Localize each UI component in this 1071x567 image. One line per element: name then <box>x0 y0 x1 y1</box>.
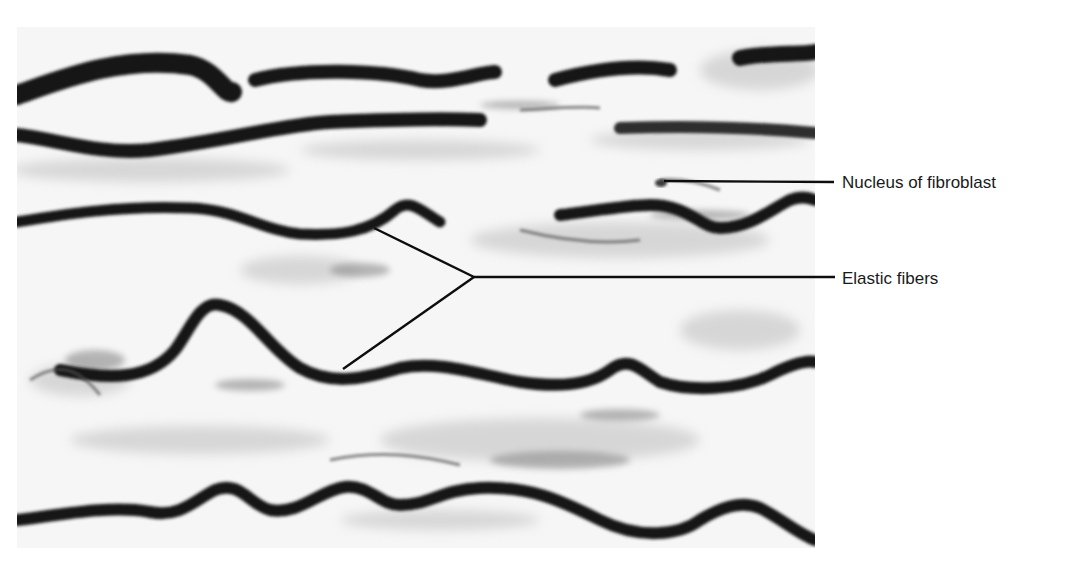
micrograph-image <box>10 27 820 548</box>
label-nucleus-of-fibroblast: Nucleus of fibroblast <box>842 173 996 193</box>
label-elastic-fibers: Elastic fibers <box>842 269 938 289</box>
nucleus-leader-line <box>664 181 834 182</box>
